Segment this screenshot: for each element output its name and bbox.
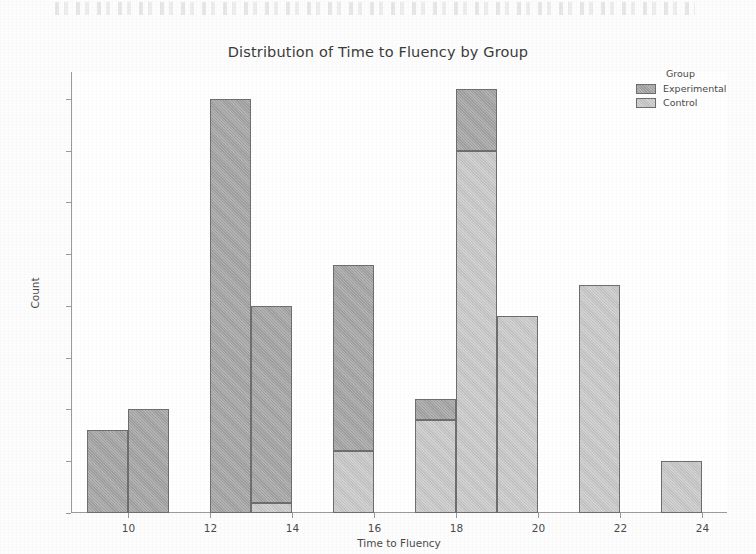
bar-segment-experimental bbox=[456, 89, 497, 151]
y-axis-label: Count bbox=[29, 277, 41, 308]
x-tick-mark bbox=[538, 513, 539, 518]
x-tick-label: 16 bbox=[351, 522, 397, 534]
x-tick-mark bbox=[128, 513, 129, 518]
bar-segment-experimental bbox=[251, 306, 292, 503]
x-tick-label: 24 bbox=[679, 522, 725, 534]
bar-segment-control bbox=[661, 461, 702, 513]
y-tick-mark bbox=[66, 409, 71, 410]
x-axis-label: Time to Fluency bbox=[71, 537, 727, 549]
y-tick-mark bbox=[66, 461, 71, 462]
x-tick-mark bbox=[702, 513, 703, 518]
legend-swatch-icon bbox=[636, 84, 656, 94]
bar-segment-control bbox=[333, 451, 374, 513]
x-tick-label: 18 bbox=[433, 522, 479, 534]
bar-segment-control bbox=[251, 503, 292, 513]
x-tick-label: 14 bbox=[269, 522, 315, 534]
y-tick-mark bbox=[66, 513, 71, 514]
bar-segment-experimental bbox=[333, 265, 374, 451]
bar-segment-experimental bbox=[210, 99, 251, 513]
y-axis-spine bbox=[71, 72, 72, 513]
x-tick-label: 22 bbox=[597, 522, 643, 534]
bar-segment-experimental bbox=[415, 399, 456, 420]
y-tick-mark bbox=[66, 151, 71, 152]
plot-background bbox=[71, 72, 727, 513]
y-tick-mark bbox=[66, 358, 71, 359]
bar-segment-control bbox=[497, 316, 538, 513]
x-tick-label: 20 bbox=[515, 522, 561, 534]
x-tick-label: 12 bbox=[187, 522, 233, 534]
y-tick-mark bbox=[66, 99, 71, 100]
y-tick-mark bbox=[66, 306, 71, 307]
legend-title: Group bbox=[666, 68, 748, 79]
bar-segment-experimental bbox=[87, 430, 128, 513]
legend: Group ExperimentalControl bbox=[636, 68, 748, 111]
legend-item[interactable]: Experimental bbox=[636, 83, 748, 94]
x-tick-mark bbox=[374, 513, 375, 518]
bar-segment-control bbox=[415, 420, 456, 513]
x-tick-label: 10 bbox=[105, 522, 151, 534]
bar-segment-control bbox=[456, 151, 497, 513]
plot-area: 0510152025303540 1012141618202224 Count … bbox=[71, 72, 727, 513]
legend-item[interactable]: Control bbox=[636, 97, 748, 108]
x-tick-mark bbox=[620, 513, 621, 518]
x-tick-mark bbox=[210, 513, 211, 518]
chart-title: Distribution of Time to Fluency by Group bbox=[0, 44, 756, 60]
bar-segment-experimental bbox=[128, 409, 169, 513]
y-tick-mark bbox=[66, 254, 71, 255]
legend-item-label: Experimental bbox=[663, 83, 726, 94]
legend-entries: ExperimentalControl bbox=[636, 83, 748, 108]
x-axis-spine bbox=[71, 512, 727, 513]
bar-segment-control bbox=[579, 285, 620, 513]
scan-bleed-artifact bbox=[55, 2, 695, 15]
figure-canvas: Distribution of Time to Fluency by Group… bbox=[0, 0, 756, 554]
legend-swatch-icon bbox=[636, 98, 656, 108]
y-tick-mark bbox=[66, 202, 71, 203]
x-tick-mark bbox=[292, 513, 293, 518]
x-tick-mark bbox=[456, 513, 457, 518]
legend-item-label: Control bbox=[663, 97, 697, 108]
